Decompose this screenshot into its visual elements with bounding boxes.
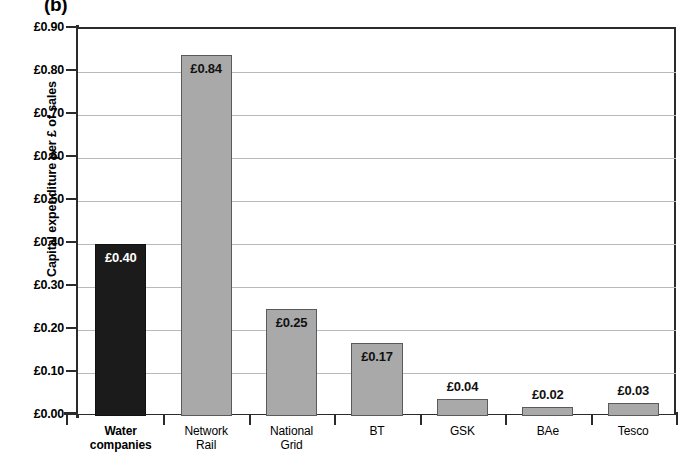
gridline (78, 201, 676, 202)
bar-value-label: £0.17 (332, 350, 422, 364)
x-axis-label-line: National (249, 425, 334, 439)
y-axis-tick (66, 241, 78, 243)
gridline (78, 330, 676, 331)
x-axis-tick (163, 414, 165, 425)
x-axis-tick (591, 414, 593, 425)
plot-area: £0.40£0.84£0.25£0.17£0.04£0.02£0.03 (78, 27, 676, 414)
x-axis-tick (676, 414, 678, 425)
x-axis-label-line: GSK (420, 425, 505, 439)
gridline (78, 287, 676, 288)
y-axis-tick-label: £0.90 (6, 21, 64, 33)
x-axis-label-line: Water (78, 425, 163, 439)
x-axis-label-line: BT (334, 425, 419, 439)
x-axis-label-line: Grid (249, 439, 334, 453)
x-axis-tick (334, 414, 336, 425)
y-axis-tick (66, 284, 78, 286)
x-axis-label-line: Tesco (591, 425, 676, 439)
y-axis-tick (66, 155, 78, 157)
bar-value-label: £0.04 (417, 380, 507, 394)
y-axis-tick (66, 327, 78, 329)
x-axis-category-label: NetworkRail (163, 425, 248, 452)
y-axis-tick-label: £0.80 (6, 64, 64, 76)
y-axis-tick-labels: £0.90£0.80£0.70£0.60£0.50£0.40£0.30£0.20… (0, 0, 64, 454)
bar-value-label: £0.25 (247, 316, 337, 330)
gridline (78, 158, 676, 159)
bar[interactable] (181, 55, 232, 416)
y-axis-tick-label: £0.00 (6, 408, 64, 420)
x-axis-tick (505, 414, 507, 425)
bar[interactable] (608, 403, 659, 416)
bar[interactable] (437, 399, 488, 416)
x-axis-category-label: BT (334, 425, 419, 439)
y-axis-tick (66, 198, 78, 200)
bar[interactable] (522, 407, 573, 416)
x-axis-label-line: Rail (163, 439, 248, 453)
y-axis-tick (66, 69, 78, 71)
bar-value-label: £0.02 (503, 388, 593, 402)
x-axis-tick (66, 414, 68, 425)
x-axis-label-line: BAe (505, 425, 590, 439)
chart-figure: (b) Capital expenditure per £ of sales £… (0, 0, 681, 454)
y-axis-tick (66, 26, 78, 28)
y-axis-tick-label: £0.10 (6, 365, 64, 377)
x-axis-tick (420, 414, 422, 425)
y-axis-tick-label: £0.70 (6, 107, 64, 119)
y-axis-tick-label: £0.30 (6, 279, 64, 291)
y-axis-tick-label: £0.40 (6, 236, 64, 248)
x-axis-tick (249, 414, 251, 425)
bar-value-label: £0.84 (161, 62, 251, 76)
bar-value-label: £0.40 (76, 251, 166, 265)
x-axis-category-label: BAe (505, 425, 590, 439)
bar-value-label: £0.03 (588, 384, 678, 398)
y-axis-tick (66, 112, 78, 114)
x-axis-category-label: Watercompanies (78, 425, 163, 452)
bar[interactable] (95, 244, 146, 416)
y-axis-tick-label: £0.60 (6, 150, 64, 162)
x-axis-label-line: Network (163, 425, 248, 439)
y-axis-tick-label: £0.20 (6, 322, 64, 334)
gridline (78, 115, 676, 116)
x-axis-category-label: Tesco (591, 425, 676, 439)
x-axis-category-label: GSK (420, 425, 505, 439)
y-axis-tick-label: £0.50 (6, 193, 64, 205)
y-axis-tick (66, 370, 78, 372)
gridline (78, 244, 676, 245)
x-axis-label-line: companies (78, 439, 163, 453)
x-axis-category-label: NationalGrid (249, 425, 334, 452)
